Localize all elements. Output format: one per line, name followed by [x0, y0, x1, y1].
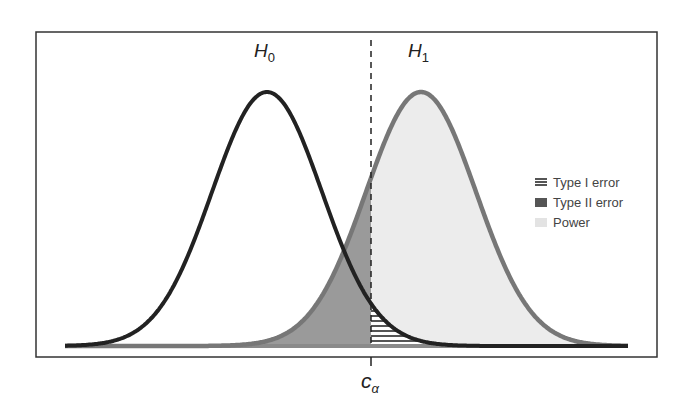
h0-label: H0 [254, 40, 275, 65]
legend: Type I error Type II error Power [535, 172, 623, 232]
dark-swatch-icon [535, 198, 547, 207]
legend-item-type-i-error: Type I error [535, 172, 623, 192]
legend-item-power: Power [535, 212, 623, 232]
legend-label: Power [553, 215, 590, 230]
legend-item-type-ii-error: Type II error [535, 192, 623, 212]
legend-label: Type II error [553, 195, 623, 210]
critical-value-label: cα [361, 369, 379, 396]
light-swatch-icon [535, 218, 547, 227]
legend-label: Type I error [553, 175, 619, 190]
h1-label: H1 [408, 40, 429, 65]
hatch-swatch-icon [535, 178, 547, 187]
